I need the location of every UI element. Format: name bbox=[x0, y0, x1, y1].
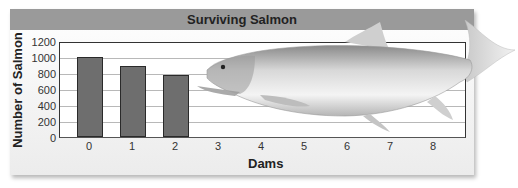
y-axis-label: Number of Salmon bbox=[10, 32, 25, 148]
x-tick-3: 3 bbox=[208, 140, 228, 152]
x-tick-1: 1 bbox=[122, 140, 142, 152]
bar-2-dams bbox=[163, 75, 189, 137]
x-tick-4: 4 bbox=[251, 140, 271, 152]
salmon-illustration bbox=[195, 20, 518, 140]
x-axis-label: Dams bbox=[248, 156, 283, 171]
x-tick-5: 5 bbox=[294, 140, 314, 152]
bar-0-dams bbox=[77, 57, 103, 137]
bar-1-dam bbox=[120, 66, 146, 137]
x-tick-2: 2 bbox=[165, 140, 185, 152]
x-tick-7: 7 bbox=[380, 140, 400, 152]
x-tick-6: 6 bbox=[337, 140, 357, 152]
x-tick-8: 8 bbox=[423, 140, 443, 152]
x-tick-0: 0 bbox=[79, 140, 99, 152]
